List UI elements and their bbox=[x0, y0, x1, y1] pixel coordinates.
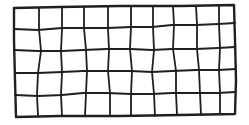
grid-vertical-line bbox=[196, 6, 201, 115]
grid-vertical-line bbox=[37, 8, 41, 116]
grid-vertical-line bbox=[219, 5, 220, 114]
grid-outer-border bbox=[14, 5, 236, 117]
grid-horizontal-line bbox=[14, 47, 235, 51]
grid-vertical-line bbox=[108, 7, 110, 116]
hand-drawn-grid bbox=[0, 0, 249, 125]
grid-border-line bbox=[14, 5, 236, 117]
grid-vertical-line bbox=[61, 7, 62, 116]
grid-inner-lines bbox=[14, 5, 236, 116]
hand-drawn-grid-canvas bbox=[0, 0, 249, 125]
grid-horizontal-line bbox=[15, 92, 235, 96]
grid-vertical-line bbox=[130, 6, 132, 116]
grid-vertical-line bbox=[84, 7, 87, 116]
grid-vertical-line bbox=[152, 6, 155, 116]
grid-vertical-line bbox=[173, 6, 177, 115]
grid-horizontal-line bbox=[14, 23, 235, 30]
grid-horizontal-line bbox=[15, 69, 236, 73]
